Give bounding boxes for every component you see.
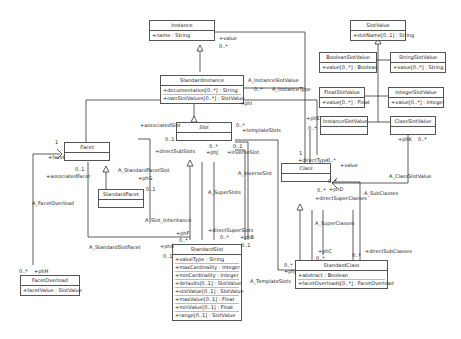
- class-name: StandardInstance: [161, 76, 243, 86]
- multiplicity-label: 0..*: [327, 157, 336, 163]
- class-name: ClassSlotValue: [391, 117, 435, 127]
- attribute: +abstract : Boolean: [298, 272, 385, 280]
- attribute: +facetOverloads[0..*] : FacetOverload: [298, 280, 385, 287]
- multiplicity-label: 0..*: [179, 237, 188, 243]
- multiplicity-label: 0..*: [254, 86, 263, 92]
- multiplicity-label: 0..*: [317, 187, 326, 193]
- role-label: +phJ: [284, 268, 296, 274]
- multiplicity-label: 0..*: [219, 43, 228, 49]
- role-label: +phI: [240, 100, 252, 106]
- multiplicity-label: 0..1: [241, 242, 251, 248]
- class-instance[interactable]: Instance +name : String: [149, 20, 215, 41]
- class-name: FloatSlotValue: [320, 88, 364, 98]
- multiplicity-label: 0..1: [146, 186, 156, 192]
- class-name: Instance: [150, 21, 214, 31]
- class-facet[interactable]: Facet: [64, 142, 110, 161]
- multiplicity-label: 0..*: [352, 252, 361, 258]
- class-name: InstanceSlotValue: [321, 117, 367, 127]
- role-label: +phA: [160, 243, 174, 249]
- multiplicity-label: 0..*: [220, 234, 229, 240]
- class-slot[interactable]: Slot: [176, 122, 232, 141]
- attribute: +slotName[0..1] : String: [353, 32, 403, 39]
- class-name: SlotValue: [351, 21, 405, 31]
- role-label: +directType: [298, 157, 328, 163]
- association-label: A_TemplateSlots: [250, 278, 291, 284]
- role-label: +templateSlots: [242, 127, 281, 133]
- attribute: +minValue[0..1] : Float: [175, 304, 239, 312]
- multiplicity-label: 0..*: [328, 178, 337, 184]
- attribute: +ownSlotValues[0..*] : SlotValue: [163, 95, 241, 102]
- attribute: +maxCardinality : Integer: [175, 264, 239, 272]
- role-label: +value: [219, 35, 237, 41]
- class-slot-value[interactable]: SlotValue +slotName[0..1] : String: [350, 20, 406, 41]
- association-label: A_InstanceSlotValue: [248, 77, 299, 83]
- role-label: +facet: [48, 154, 65, 160]
- role-label: +value: [340, 162, 358, 168]
- attribute: +valueType : String: [175, 256, 239, 264]
- role-label: +phG: [138, 175, 152, 181]
- class-name: Class: [282, 164, 330, 174]
- association-label: A_SuperClasses: [315, 220, 354, 226]
- association-label: A_InverseSlot: [238, 170, 272, 176]
- class-name: StandardSlot: [173, 245, 241, 255]
- role-label: +phH: [34, 268, 48, 274]
- class-instance-slot-value[interactable]: InstanceSlotValue: [320, 116, 368, 135]
- association-label: A_FacetOverload: [32, 200, 74, 206]
- multiplicity-label: 1: [55, 139, 58, 145]
- attribute: +minCardinality : Integer: [175, 272, 239, 280]
- class-standard-class[interactable]: StandardClass +abstract : Boolean +facet…: [295, 260, 388, 289]
- role-label: +associatedFacet: [46, 173, 90, 179]
- attribute: +defaults[0..1] : SlotValue: [175, 280, 239, 288]
- role-label: +directSuperClasses: [315, 195, 367, 201]
- association-label: A_SubClasses: [364, 190, 398, 196]
- class-name: FacetOverload: [21, 276, 79, 286]
- attribute: +documentation[0..*] : String: [163, 87, 241, 95]
- multiplicity-label: 0..*: [418, 136, 427, 142]
- attribute: +name : String: [152, 32, 212, 39]
- class-name: Slot: [177, 123, 231, 133]
- class-string-slot-value[interactable]: StringSlotValue +value[0..*] : String: [390, 52, 446, 73]
- uml-class-diagram: Instance +name : String StandardInstance…: [0, 0, 461, 339]
- class-class[interactable]: Class: [281, 163, 331, 182]
- role-label: +phK: [398, 136, 412, 142]
- role-label: +phF: [176, 230, 189, 236]
- class-standard-facet[interactable]: StandardFacet: [98, 189, 144, 208]
- association-label: A_SuperSlots: [208, 189, 241, 195]
- multiplicity-label: 0..*: [19, 268, 28, 274]
- attribute: +maxValue[0..1] : Float: [175, 296, 239, 304]
- attribute: +slotValue[0..1] : SlotValue: [175, 288, 239, 296]
- class-name: BooleanSlotValue: [320, 53, 376, 63]
- multiplicity-label: 0..1: [163, 253, 173, 259]
- attribute: +value[0..*] : Float: [322, 99, 362, 106]
- class-facet-overload[interactable]: FacetOverload +facetValue : SlotValue: [20, 275, 80, 296]
- role-label: +phB: [240, 234, 254, 240]
- association-label: A_Slot_Inheritance: [145, 217, 191, 223]
- class-boolean-slot-value[interactable]: BooleanSlotValue +value[0..*] : Boolean: [319, 52, 377, 73]
- role-label: +directSuperSlots: [208, 227, 253, 233]
- class-float-slot-value[interactable]: FloatSlotValue +value[0..*] : Float: [319, 87, 365, 108]
- class-integer-slot-value[interactable]: IntegerSlotValue +value[0..*] : Integer: [388, 87, 444, 108]
- role-label: +phD: [329, 186, 343, 192]
- multiplicity-label: 1: [299, 150, 302, 156]
- class-standard-slot[interactable]: StandardSlot +valueType : String +maxCar…: [172, 244, 242, 321]
- class-name: StandardFacet: [99, 190, 143, 200]
- multiplicity-label: 0..*: [308, 125, 317, 131]
- class-standard-instance[interactable]: StandardInstance +documentation[0..*] : …: [160, 75, 244, 104]
- role-label: +associatedSlot: [140, 122, 181, 128]
- multiplicity-label: 0..1: [75, 166, 85, 172]
- attribute: +value[0..*] : Boolean: [322, 64, 374, 71]
- attribute: +range[0..1] : SlotValue: [175, 312, 239, 319]
- association-label: A_StandardSlotFacet: [89, 244, 141, 250]
- association-label: A_ClassSlotValue: [389, 173, 431, 179]
- multiplicity-label: 0..1: [165, 136, 175, 142]
- role-label: +phJ: [206, 149, 218, 155]
- role-label: +inverseSlot: [227, 149, 259, 155]
- class-name: Facet: [65, 143, 109, 153]
- role-label: +directSubClasses: [365, 248, 412, 254]
- class-name: StringSlotValue: [391, 53, 445, 63]
- class-name: StandardClass: [296, 261, 387, 271]
- attribute: +value[0..*] : Integer: [391, 99, 441, 106]
- role-label: +directSubSlots: [155, 148, 195, 154]
- attribute: +facetValue : SlotValue: [23, 287, 77, 294]
- class-class-slot-value[interactable]: ClassSlotValue: [390, 116, 436, 135]
